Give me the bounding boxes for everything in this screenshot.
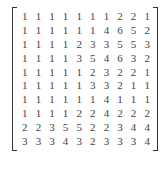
matrix-cell: 5 [90,53,96,64]
matrix-cell: 5 [131,39,137,50]
matrix-cell: 1 [36,108,42,119]
matrix-cell: 1 [36,11,42,22]
matrix-cell: 2 [117,67,123,78]
matrix-cell: 1 [22,11,28,22]
matrix-cell: 4 [104,53,110,64]
matrix-cell: 1 [90,94,96,105]
matrix-cell: 3 [104,136,110,147]
matrix-cell: 1 [22,94,28,105]
matrix-cell: 3 [49,136,55,147]
matrix-cell: 2 [76,39,82,50]
matrix-cell: 3 [117,122,123,133]
matrix-cell: 1 [36,80,42,91]
matrix-cell: 2 [90,122,96,133]
matrix-cell: 1 [49,39,55,50]
matrix-cell: 3 [117,136,123,147]
matrix-cell: 1 [22,67,28,78]
matrix-cell: 2 [90,67,96,78]
matrix-cell: 2 [144,108,150,119]
matrix-cell: 1 [63,53,69,64]
matrix-cell: 1 [36,67,42,78]
matrix-cell: 1 [144,11,150,22]
matrix-cell: 2 [117,80,123,91]
matrix-cell: 5 [63,122,69,133]
matrix-cell: 2 [131,108,137,119]
matrix-cell: 1 [144,94,150,105]
matrix-cell: 2 [90,108,96,119]
matrix-cell: 2 [76,108,82,119]
matrix-cell: 3 [49,122,55,133]
matrix-cell: 1 [36,94,42,105]
matrix-cell: 4 [104,94,110,105]
matrix-cell: 2 [131,67,137,78]
matrix-cell: 3 [76,136,82,147]
matrix-cell: 2 [131,11,137,22]
matrix-cell: 3 [76,53,82,64]
matrix-cell: 2 [22,122,28,133]
matrix-cell: 3 [131,136,137,147]
matrix-cell: 1 [63,80,69,91]
matrix-cell: 4 [104,25,110,36]
matrix-cell: 5 [131,25,137,36]
matrix-cell: 2 [36,122,42,133]
matrix-cell: 1 [22,108,28,119]
matrix-cell: 1 [49,53,55,64]
matrix-cell: 4 [144,136,150,147]
matrix: 1111111221111111465211112335531111354632… [12,7,158,151]
matrix-cell: 3 [104,67,110,78]
matrix-cell: 6 [117,25,123,36]
matrix-cell: 1 [49,25,55,36]
matrix-cell: 1 [63,39,69,50]
matrix-cell: 3 [131,53,137,64]
matrix-cell: 1 [49,108,55,119]
matrix-cell: 1 [63,94,69,105]
matrix-cell: 1 [49,94,55,105]
matrix-cell: 1 [22,80,28,91]
matrix-cell: 1 [131,80,137,91]
matrix-cell: 1 [36,53,42,64]
matrix-cell: 1 [49,80,55,91]
left-bracket [12,7,17,151]
matrix-cell: 1 [144,67,150,78]
matrix-cell: 1 [90,25,96,36]
matrix-cell: 4 [104,108,110,119]
matrix-cell: 1 [22,25,28,36]
matrix-cell: 1 [76,25,82,36]
matrix-cell: 1 [63,11,69,22]
matrix-cell: 4 [131,122,137,133]
matrix-cell: 1 [131,94,137,105]
matrix-cell: 1 [76,67,82,78]
matrix-cell: 1 [76,80,82,91]
matrix-cell: 3 [104,39,110,50]
matrix-cell: 5 [76,122,82,133]
matrix-cell: 1 [117,94,123,105]
matrix-cell: 4 [63,136,69,147]
matrix-cell: 1 [144,80,150,91]
matrix-cell: 1 [22,39,28,50]
matrix-cell: 1 [63,25,69,36]
caption-cut-off [30,162,150,169]
matrix-cell: 1 [22,53,28,64]
matrix-cell: 2 [104,122,110,133]
matrix-cell: 1 [63,108,69,119]
matrix-cell: 2 [144,25,150,36]
matrix-cell: 1 [104,11,110,22]
matrix-cell: 3 [90,39,96,50]
matrix-cell: 3 [90,80,96,91]
matrix-cell: 2 [117,11,123,22]
matrix-cell: 3 [104,80,110,91]
matrix-cell: 1 [63,67,69,78]
matrix-cell: 1 [49,67,55,78]
matrix-cell: 3 [144,39,150,50]
matrix-cell: 5 [117,39,123,50]
matrix-cell: 1 [49,11,55,22]
matrix-cell: 1 [36,25,42,36]
matrix-cell: 2 [117,108,123,119]
matrix-grid: 1111111221111111465211112335531111354632… [18,10,154,148]
matrix-cell: 2 [144,53,150,64]
matrix-cell: 2 [90,136,96,147]
matrix-cell: 1 [90,11,96,22]
matrix-cell: 3 [36,136,42,147]
matrix-cell: 4 [144,122,150,133]
matrix-cell: 3 [22,136,28,147]
